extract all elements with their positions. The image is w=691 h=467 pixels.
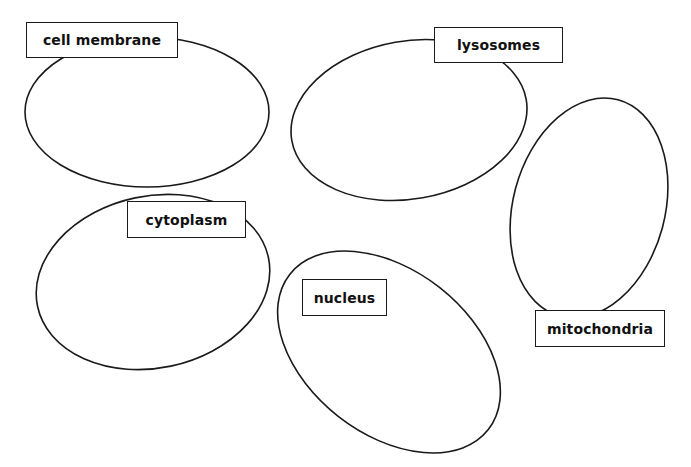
cell-membrane-label: cell membrane bbox=[26, 22, 178, 58]
mitochondria-text: mitochondria bbox=[547, 321, 653, 337]
lysosomes-text: lysosomes bbox=[457, 37, 540, 53]
nucleus-text: nucleus bbox=[314, 290, 376, 306]
cell-membrane-text: cell membrane bbox=[43, 32, 161, 48]
cytoplasm-text: cytoplasm bbox=[146, 212, 228, 228]
organizer-shapes bbox=[0, 0, 691, 467]
nucleus-oval[interactable] bbox=[239, 210, 539, 467]
cytoplasm-label: cytoplasm bbox=[127, 201, 246, 238]
cell-membrane-oval[interactable] bbox=[25, 37, 269, 187]
mitochondria-label: mitochondria bbox=[535, 310, 665, 347]
mitochondria-oval[interactable] bbox=[487, 80, 691, 336]
nucleus-label: nucleus bbox=[302, 279, 387, 316]
lysosomes-label: lysosomes bbox=[434, 27, 563, 63]
